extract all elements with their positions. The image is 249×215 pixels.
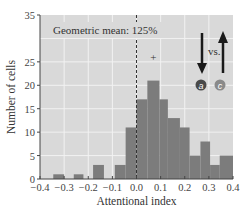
histogram-bar xyxy=(220,156,233,179)
x-tick-label: −0.3 xyxy=(55,182,74,193)
x-tick-label: 0.4 xyxy=(226,182,240,193)
y-tick-label: 35 xyxy=(25,10,36,21)
x-tick-label: −0.4 xyxy=(30,182,50,193)
histogram-bar xyxy=(137,99,148,179)
y-tick-label: 20 xyxy=(25,80,36,91)
x-tick-label: 0.3 xyxy=(202,182,215,193)
geometric-mean-label: Geometric mean: 125% xyxy=(53,24,157,36)
x-tick-label: −0.2 xyxy=(79,182,98,193)
y-tick-label: 15 xyxy=(25,104,36,115)
histogram-bar xyxy=(210,165,220,179)
vs-label: vs. xyxy=(208,45,221,57)
y-axis-title: Number of cells xyxy=(5,59,17,134)
histogram-bar xyxy=(74,174,84,179)
histogram-bar xyxy=(159,99,167,179)
x-tick-label: 0.1 xyxy=(154,182,167,193)
svg-text:c: c xyxy=(218,81,223,91)
y-tick-label: 5 xyxy=(30,151,35,162)
histogram-bar xyxy=(53,174,64,179)
histogram-chart: 051015202535 −0.4−0.3−0.2−0.10.00.10.20.… xyxy=(0,0,249,215)
svg-text:a: a xyxy=(198,81,203,91)
badge-a-icon: a xyxy=(196,80,207,91)
histogram-bar xyxy=(168,118,180,179)
histogram-bar xyxy=(190,156,201,179)
badge-c-icon: c xyxy=(215,80,226,91)
histogram-bar xyxy=(147,81,159,179)
y-tick-label: 10 xyxy=(25,127,36,138)
x-tick-label: 0.0 xyxy=(130,182,143,193)
histogram-bar xyxy=(126,127,137,179)
x-tick-label: 0.2 xyxy=(178,182,191,193)
y-tick-label: 25 xyxy=(25,57,36,68)
peak-plus-marker: + xyxy=(150,51,156,63)
x-tick-label: −0.1 xyxy=(103,182,122,193)
histogram-bar xyxy=(180,127,190,179)
histogram-bar xyxy=(93,165,104,179)
x-axis-title: Attentional index xyxy=(96,195,176,207)
histogram-bar xyxy=(115,165,126,179)
histogram-bar xyxy=(200,142,210,179)
y-axis-ticks: 051015202535 xyxy=(25,10,41,185)
